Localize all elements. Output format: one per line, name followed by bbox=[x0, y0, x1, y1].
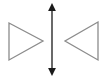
mirror-diagram bbox=[0, 0, 102, 79]
left-triangle bbox=[9, 23, 43, 60]
right-triangle bbox=[65, 22, 98, 60]
